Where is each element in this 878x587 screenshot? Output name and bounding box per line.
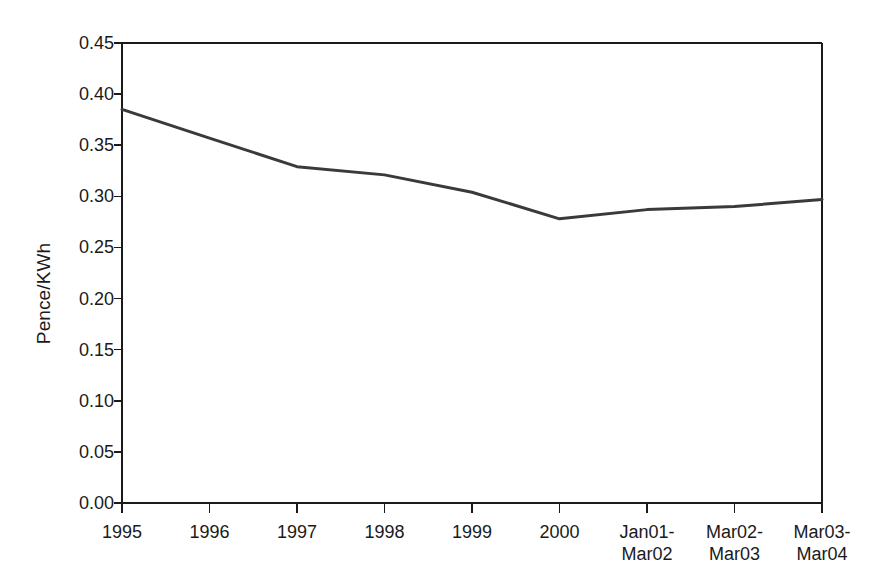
x-axis-tick-labels: 199519961997199819992000Jan01-Mar02Mar02… <box>0 0 878 587</box>
x-tick-label-line1: 1996 <box>189 522 229 542</box>
x-tick-label-line1: 1998 <box>364 522 404 542</box>
x-tick-label-line1: Mar02- <box>706 522 763 542</box>
x-tick-label-line1: 1999 <box>452 522 492 542</box>
x-tick-label-line1: Jan01- <box>619 522 674 542</box>
line-chart: Pence/KWh 0.000.050.100.150.200.250.300.… <box>0 0 878 587</box>
x-tick-label: Mar03-Mar04 <box>762 521 878 565</box>
x-tick-label-line2: Mar04 <box>762 543 878 565</box>
x-tick-label-line1: 2000 <box>539 522 579 542</box>
x-tick-label-line1: Mar03- <box>793 522 850 542</box>
x-tick-label-line1: 1995 <box>102 522 142 542</box>
x-tick-label-line1: 1997 <box>277 522 317 542</box>
